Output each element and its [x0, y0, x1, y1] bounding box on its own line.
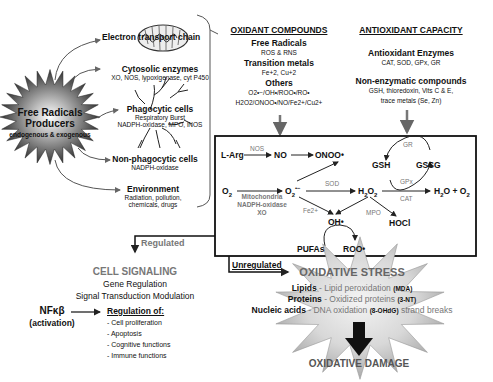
- regulation-item: - Cell proliferation: [107, 317, 170, 328]
- source-title: Environment: [124, 184, 181, 194]
- group-title: Antioxidant Enzymes: [356, 48, 467, 58]
- gr-label: GR: [403, 141, 413, 148]
- regulated-label: Regulated: [141, 238, 185, 248]
- source-non-phagocytic-cells: Non-phagocytic cells NADPH-oxidase: [112, 154, 198, 171]
- cell-signaling-line1: Gene Regulation: [76, 278, 195, 290]
- oxidative-damage-label: OXIDATIVE DAMAGE: [309, 358, 409, 369]
- nfkb-block: NFκβ (activation): [29, 305, 74, 329]
- regulation-list: Regulation of: - Cell proliferation - Ap…: [107, 306, 170, 361]
- source-detail: Respiratory Burst: [118, 114, 203, 121]
- unregulated-label: Unregulated: [232, 260, 282, 270]
- group-items-2: trace metals (Se, Zn): [356, 96, 467, 106]
- antioxidant-capacity-header: ANTIOXIDANT CAPACITY: [356, 25, 467, 35]
- producers-title: Free Radicals Producers endogenous & exo…: [9, 107, 90, 140]
- regulation-header: Regulation of:: [107, 306, 170, 317]
- o2-sources: Mitochondria NADPH-oxidase XO: [237, 193, 286, 217]
- group-title: Transition metals: [231, 58, 328, 68]
- source-detail-2: NADPH-oxidase, MPO, iNOS: [118, 121, 203, 128]
- group-title: Free Radicals: [231, 38, 328, 48]
- source-electron-transport: Electron transport chain: [102, 32, 200, 42]
- regulation-item: - Immune functions: [107, 350, 170, 361]
- source-detail: XO, NOS, lypoxigenase, cyt P450: [111, 74, 209, 81]
- group-title: Others: [231, 78, 328, 88]
- regulation-item: - Cognitive functions: [107, 339, 170, 350]
- stress-row-proteins: Proteins - Oxidized proteins (3-NT): [252, 294, 453, 305]
- sod-label: SOD: [325, 180, 339, 187]
- antioxidant-capacity-panel: ANTIOXIDANT CAPACITY Antioxidant Enzymes…: [356, 25, 467, 106]
- l-arg-label: L-Arg: [221, 150, 244, 160]
- hocl-label: HOCl: [389, 218, 410, 228]
- o2-source-item: XO: [237, 209, 286, 217]
- source-title: Cytosolic enzymes: [111, 64, 209, 74]
- source-detail: NADPH-oxidase: [112, 164, 198, 171]
- producers-title-line1: Free Radicals: [9, 107, 90, 118]
- source-detail-2: chemicals, drugs: [124, 201, 181, 208]
- source-detail: Radiation, pollution,: [124, 194, 181, 201]
- gssg-label: GSSG: [416, 160, 441, 170]
- group-items: O2•−/OH•/ROO•/RO•: [231, 88, 328, 98]
- mpo-label: MPO: [366, 209, 381, 216]
- group-items: CAT, SOD, GPx, GR: [356, 58, 467, 68]
- o2-source-item: NADPH-oxidase: [237, 201, 286, 209]
- stress-row-lipids: Lipids - Lipid peroxidation (MDA): [252, 283, 453, 294]
- gpx-label: GPx: [400, 178, 413, 185]
- oh-label: OH•: [328, 217, 344, 227]
- h2o2-label: H2O2: [358, 186, 377, 196]
- cell-signaling-panel: CELL SIGNALING Gene Regulation Signal Tr…: [76, 266, 195, 302]
- source-phagocytic-cells: Phagocytic cells Respiratory Burst NADPH…: [118, 104, 203, 128]
- oxidative-stress-rows: Lipids - Lipid peroxidation (MDA) Protei…: [252, 283, 453, 316]
- source-cytosolic-enzymes: Cytosolic enzymes XO, NOS, lypoxigenase,…: [111, 64, 209, 81]
- activation-label: (activation): [29, 317, 74, 329]
- stress-row-nucleic-acids: Nucleic acids - DNA oxidation (8-OHdG) s…: [252, 305, 453, 316]
- gsh-label: GSH: [372, 160, 390, 170]
- no-label: NO: [274, 150, 287, 160]
- o2-label: O2: [222, 186, 232, 196]
- fe2-label: Fe2+: [303, 207, 318, 214]
- h2o-o2-label: H2O + O2: [434, 186, 470, 196]
- oxidative-stress-title: OXIDATIVE STRESS: [299, 266, 405, 278]
- cat-label: CAT: [400, 195, 413, 202]
- producers-title-line2: Producers: [9, 118, 90, 129]
- o2-source-item: Mitochondria: [237, 193, 286, 201]
- roo-label: ROO•: [343, 244, 365, 254]
- onoo-label: ONOO•: [315, 150, 344, 160]
- group-items: Fe+2, Cu+2: [231, 68, 328, 78]
- pufas-label: PUFAs: [297, 244, 324, 254]
- superoxide-label: O2•−: [285, 186, 300, 196]
- oxidant-compounds-header: OXIDANT COMPOUNDS: [231, 25, 328, 35]
- producers-subtitle: endogenous & exogenous: [9, 129, 90, 140]
- nfkb-label: NFκβ: [29, 305, 74, 317]
- oxidant-compounds-panel: OXIDANT COMPOUNDS Free Radicals ROS & RN…: [231, 25, 328, 108]
- regulation-item: - Apoptosis: [107, 328, 170, 339]
- group-items-2: H2O2/ONOO•/NO/Fe2+/Cu2+: [231, 98, 328, 108]
- source-environment: Environment Radiation, pollution, chemic…: [124, 184, 181, 208]
- group-title: Non-enzymatic compounds: [356, 76, 467, 86]
- group-items: ROS & RNS: [231, 48, 328, 58]
- cell-signaling-line2: Signal Transduction Modulation: [76, 290, 195, 302]
- nos-label: NOS: [250, 145, 264, 152]
- source-title: Phagocytic cells: [118, 104, 203, 114]
- source-title: Non-phagocytic cells: [112, 154, 198, 164]
- cell-signaling-title: CELL SIGNALING: [76, 266, 195, 278]
- group-items: GSH, thioredoxin, Vits C & E,: [356, 86, 467, 96]
